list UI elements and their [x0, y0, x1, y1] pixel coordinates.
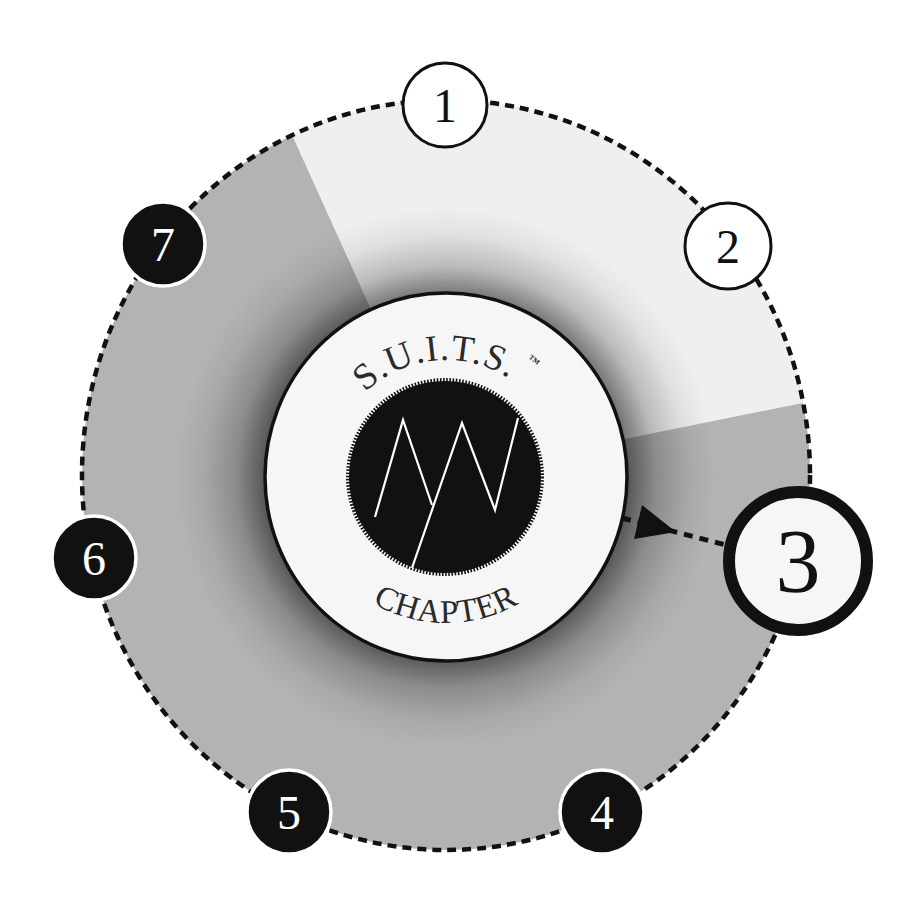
step-5: 5	[247, 770, 331, 854]
step-3-label: 3	[776, 512, 821, 611]
gear-disk	[349, 381, 541, 573]
step-2: 2	[685, 203, 771, 289]
step-4-label: 4	[590, 786, 614, 839]
step-2-label: 2	[716, 220, 740, 273]
step-1: 1	[403, 63, 487, 147]
step-7-label: 7	[151, 218, 175, 271]
step-7: 7	[121, 202, 205, 286]
step-1-label: 1	[433, 79, 457, 132]
suits-chapter-cycle-diagram: S.U.I.T.S. ™ CHAPTER 1 2 3	[0, 0, 921, 910]
step-5-label: 5	[277, 786, 301, 839]
step-6-label: 6	[82, 532, 106, 585]
hub: S.U.I.T.S. ™ CHAPTER	[265, 293, 627, 661]
step-4: 4	[560, 770, 644, 854]
step-6: 6	[52, 516, 136, 600]
step-3-current: 3	[729, 492, 867, 630]
